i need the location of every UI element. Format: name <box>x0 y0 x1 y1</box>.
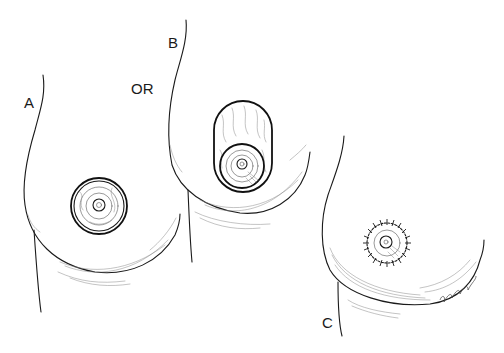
panel-a: A <box>24 75 180 312</box>
panel-b-oval-excision <box>214 101 272 192</box>
or-label: OR <box>131 80 154 97</box>
panel-c-sutured-areola <box>363 219 411 267</box>
panel-b: B <box>168 20 310 262</box>
surgical-illustration: A OR B <box>0 0 504 353</box>
suture-marks <box>363 219 411 267</box>
panel-c-breast-outline <box>322 136 484 305</box>
panel-c-torso-line <box>338 282 342 336</box>
panel-c-shading <box>330 248 476 318</box>
panel-a-shading <box>28 215 176 286</box>
panel-b-label: B <box>168 34 178 51</box>
panel-b-torso-line <box>188 190 192 262</box>
panel-c: C <box>322 136 484 336</box>
panel-b-breast-outline <box>169 20 310 213</box>
panel-c-label: C <box>322 314 333 331</box>
panel-b-areola <box>220 144 264 188</box>
panel-a-breast-outline <box>24 75 180 273</box>
panel-a-areola <box>71 178 127 234</box>
panel-a-label: A <box>24 94 34 111</box>
panel-a-torso-line <box>34 230 41 312</box>
